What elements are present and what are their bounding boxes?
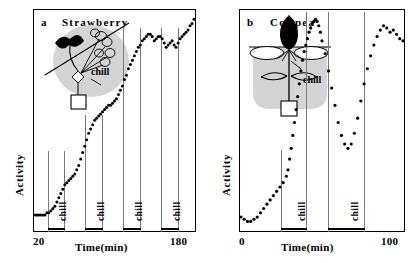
data-point: [83, 145, 86, 148]
panel-b-x-max-tick: 100: [381, 235, 398, 247]
data-point: [333, 104, 336, 107]
data-point: [366, 67, 369, 70]
data-point: [350, 142, 353, 145]
data-point: [340, 134, 343, 137]
data-point: [319, 31, 322, 34]
panel-b-x-axis-title: Time(min): [281, 241, 334, 253]
data-point: [91, 123, 94, 126]
data-point: [81, 151, 84, 154]
data-point: [89, 127, 92, 130]
data-point: [316, 20, 319, 23]
data-point: [119, 89, 122, 92]
data-point: [73, 173, 76, 176]
data-point: [246, 220, 249, 223]
data-point: [285, 175, 288, 178]
data-point: [301, 59, 304, 62]
data-point: [262, 207, 265, 210]
data-point: [272, 194, 275, 197]
data-point: [79, 158, 82, 161]
data-point: [293, 121, 296, 124]
data-point: [388, 31, 391, 34]
panel-a-x-min-tick: 20: [33, 235, 45, 247]
figure-two-panel-activity-chart: a Strawberry chill chill chill: [0, 0, 415, 263]
data-point: [309, 26, 312, 29]
panel-a-y-axis-label: Activity: [13, 154, 25, 196]
data-point: [401, 39, 404, 42]
data-point: [61, 188, 64, 191]
data-point: [55, 201, 58, 204]
data-point: [187, 29, 190, 32]
data-point: [57, 196, 60, 199]
data-point: [317, 24, 320, 27]
data-point: [252, 218, 255, 221]
data-point: [369, 54, 372, 57]
strawberry-data-curve: [33, 9, 196, 232]
data-point: [59, 192, 62, 195]
data-point: [398, 37, 401, 40]
data-point: [372, 44, 375, 47]
data-point: [177, 41, 180, 44]
data-point: [353, 132, 356, 135]
data-point: [53, 205, 56, 208]
data-point: [346, 147, 349, 150]
data-point: [125, 74, 128, 77]
data-point: [75, 168, 78, 171]
data-point: [117, 93, 120, 96]
data-point: [135, 50, 138, 53]
data-point: [382, 24, 385, 27]
data-point: [127, 67, 130, 70]
data-point: [359, 99, 362, 102]
data-point: [278, 185, 281, 188]
data-point: [133, 54, 136, 57]
data-point: [337, 121, 340, 124]
data-point: [259, 211, 262, 214]
data-point: [269, 198, 272, 201]
data-point: [171, 39, 174, 42]
data-points-cowpea: [239, 18, 404, 223]
data-point: [385, 26, 388, 29]
panel-a-x-max-tick: 180: [170, 235, 187, 247]
data-point: [249, 220, 252, 223]
data-point: [290, 147, 293, 150]
data-point: [304, 44, 307, 47]
data-point: [327, 69, 330, 72]
panel-b-y-axis-label: Activity: [220, 154, 232, 196]
data-point: [121, 84, 124, 87]
data-point: [163, 41, 166, 44]
data-point: [123, 78, 126, 81]
data-point: [286, 168, 289, 171]
data-point: [363, 82, 366, 85]
data-point: [115, 97, 118, 100]
data-point: [131, 59, 134, 62]
data-point: [77, 164, 80, 167]
data-point: [375, 35, 378, 38]
data-point: [306, 37, 309, 40]
data-point: [282, 181, 285, 184]
data-point: [330, 87, 333, 90]
data-point: [265, 203, 268, 206]
panel-a-x-axis-title: Time(min): [75, 241, 128, 253]
data-point: [392, 28, 395, 31]
data-point: [275, 190, 278, 193]
data-point: [296, 95, 299, 98]
cowpea-data-curve: [239, 9, 405, 232]
data-point: [139, 44, 142, 47]
panel-b-x-min-tick: 0: [239, 235, 245, 247]
data-point: [395, 33, 398, 36]
data-point: [320, 39, 323, 42]
data-point: [87, 132, 90, 135]
data-point: [356, 117, 359, 120]
data-point: [307, 31, 310, 34]
data-point: [175, 46, 178, 49]
data-point: [191, 22, 194, 25]
data-point: [85, 138, 88, 141]
data-point: [193, 18, 196, 21]
data-point: [161, 37, 164, 40]
data-point: [298, 82, 301, 85]
data-points-strawberry: [34, 18, 196, 217]
data-point: [243, 218, 246, 221]
data-point: [291, 134, 294, 137]
data-point: [151, 35, 154, 38]
data-point: [129, 63, 132, 66]
data-point: [324, 52, 327, 55]
